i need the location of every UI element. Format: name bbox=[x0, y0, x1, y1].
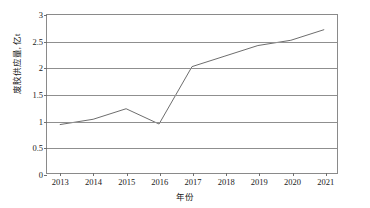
x-tick-mark bbox=[93, 173, 94, 176]
y-tick-label-1: 1 bbox=[39, 117, 43, 127]
y-tick-label-3: 3 bbox=[39, 10, 43, 20]
y-tick-mark bbox=[44, 42, 47, 43]
gridline-y-0.5 bbox=[47, 148, 337, 149]
x-axis-title: 年份 bbox=[0, 190, 370, 202]
x-tick-label-2021: 2021 bbox=[317, 177, 334, 187]
y-axis-title: 废胶供应量, 亿t bbox=[10, 14, 24, 114]
x-tick-mark bbox=[127, 173, 128, 176]
x-tick-mark bbox=[226, 173, 227, 176]
x-tick-mark bbox=[259, 173, 260, 176]
x-tick-label-2014: 2014 bbox=[85, 177, 102, 187]
y-tick-mark bbox=[44, 15, 47, 16]
y-tick-mark bbox=[44, 95, 47, 96]
y-tick-mark bbox=[44, 175, 47, 176]
plot-area: 00.511.522.53201320142015201620172018201… bbox=[46, 14, 338, 174]
y-tick-label-0: 0 bbox=[39, 170, 43, 180]
y-tick-mark bbox=[44, 68, 47, 69]
x-tick-label-2017: 2017 bbox=[185, 177, 202, 187]
x-tick-label-2016: 2016 bbox=[151, 177, 168, 187]
y-tick-mark bbox=[44, 122, 47, 123]
x-tick-label-2019: 2019 bbox=[251, 177, 268, 187]
x-tick-mark bbox=[193, 173, 194, 176]
y-tick-label-2.5: 2.5 bbox=[32, 37, 43, 47]
y-tick-label-1.5: 1.5 bbox=[32, 90, 43, 100]
chart-figure: 废胶供应量, 亿t 00.511.522.5320132014201520162… bbox=[0, 0, 370, 208]
y-tick-label-2: 2 bbox=[39, 63, 43, 73]
x-tick-mark bbox=[160, 173, 161, 176]
y-tick-label-0.5: 0.5 bbox=[32, 143, 43, 153]
x-tick-mark bbox=[293, 173, 294, 176]
x-tick-mark bbox=[326, 173, 327, 176]
gridline-y-2 bbox=[47, 68, 337, 69]
x-tick-label-2020: 2020 bbox=[284, 177, 301, 187]
x-tick-label-2015: 2015 bbox=[118, 177, 135, 187]
x-tick-label-2013: 2013 bbox=[52, 177, 69, 187]
gridline-y-2.5 bbox=[47, 42, 337, 43]
gridline-y-1 bbox=[47, 122, 337, 123]
x-tick-label-2018: 2018 bbox=[218, 177, 235, 187]
x-tick-mark bbox=[60, 173, 61, 176]
gridline-y-1.5 bbox=[47, 95, 337, 96]
y-tick-mark bbox=[44, 148, 47, 149]
